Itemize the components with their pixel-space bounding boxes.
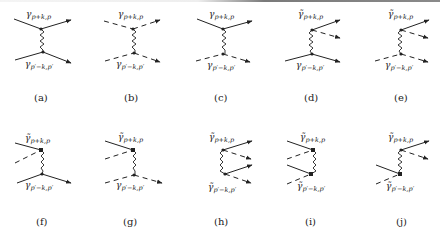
caption-d: (d) bbox=[304, 92, 318, 103]
outgoing-scalar-line bbox=[134, 175, 162, 183]
exchange-wavy-line bbox=[133, 150, 136, 175]
top-label: γ̃p+k,p bbox=[388, 9, 414, 21]
incoming-fermion-line bbox=[376, 165, 400, 174]
diagram-i: γ̃p+k,p γ̃p′−k,p′ (i) bbox=[287, 132, 326, 227]
bottom-label: γp′−k,p′ bbox=[296, 60, 325, 72]
caption-j: (j) bbox=[396, 216, 407, 227]
bottom-label: γ̃p′−k,p′ bbox=[386, 181, 415, 193]
diagram-d: γ̃p+k,p γp′−k,p′ (d) bbox=[285, 9, 340, 103]
exchange-wavy-line bbox=[132, 29, 136, 53]
vertex-dot bbox=[41, 50, 44, 53]
bottom-label: γp′−k,p′ bbox=[385, 60, 414, 72]
vertex-dot bbox=[399, 148, 402, 151]
vertex-dot bbox=[132, 173, 135, 176]
incoming-fermion-line bbox=[287, 165, 311, 174]
diagram-j: γ̃p+k,p γ̃p′−k,p′ (j) bbox=[376, 132, 429, 227]
outgoing-scalar-line bbox=[312, 30, 340, 38]
vertex-dot bbox=[221, 148, 224, 151]
outgoing-scalar-line bbox=[401, 54, 428, 62]
bottom-label: γp′−k,p′ bbox=[25, 59, 54, 71]
vertex-dot bbox=[131, 27, 134, 30]
bottom-label: γp′−k,p′ bbox=[116, 180, 145, 192]
caption-i: (i) bbox=[305, 216, 316, 227]
bottom-label: γ̃p′−k,p′ bbox=[297, 181, 326, 193]
top-label: γp+k,p bbox=[118, 9, 144, 21]
top-label: γ̃p+k,p bbox=[25, 133, 51, 145]
exchange-wavy-line bbox=[40, 29, 44, 52]
top-label: γp+k,p bbox=[26, 9, 52, 21]
diagram-a: γp+k,p γp′−k,p′ (a) bbox=[14, 9, 71, 103]
caption-h: (h) bbox=[214, 216, 228, 227]
outgoing-fermion-line bbox=[312, 54, 340, 62]
vertex-dot bbox=[40, 172, 43, 175]
caption-f: (f) bbox=[36, 216, 48, 227]
outgoing-scalar-line bbox=[223, 150, 251, 159]
diagram-b: γp+k,p γp′−k,p′ (b) bbox=[104, 9, 160, 103]
outgoing-scalar-line bbox=[401, 150, 428, 159]
caption-e: (e) bbox=[394, 92, 408, 103]
diagram-g: γ̃p+k,p γp′−k,p′ (g) bbox=[105, 132, 162, 227]
vertex-dot bbox=[310, 28, 313, 31]
outgoing-fermion-line bbox=[43, 52, 71, 63]
bottom-label: γ̃p′−k,p′ bbox=[208, 182, 237, 194]
outgoing-fermion-line bbox=[41, 20, 71, 29]
exchange-wavy-line bbox=[398, 30, 402, 54]
outgoing-fermion-line bbox=[42, 174, 71, 183]
outgoing-scalar-line bbox=[223, 54, 250, 62]
top-label: γ̃p+k,p bbox=[209, 132, 235, 144]
caption-b: (b) bbox=[124, 92, 138, 103]
exchange-wavy-line bbox=[309, 30, 313, 54]
outgoing-scalar-line bbox=[225, 174, 251, 183]
vertex-dot bbox=[310, 52, 313, 55]
diagram-c: γp+k,p γp′−k,p′ (c) bbox=[196, 9, 252, 103]
vertex-dot bbox=[39, 27, 42, 30]
vertex-dot bbox=[399, 28, 402, 31]
outgoing-fermion-line bbox=[225, 165, 252, 174]
exchange-wavy-line bbox=[398, 150, 402, 174]
vertex-dot bbox=[309, 172, 313, 176]
bottom-label: γp′−k,p′ bbox=[207, 60, 236, 72]
feynman-diagram-figure: γp+k,p γp′−k,p′ (a) γp+k,p γp′−k,p′ (b) … bbox=[0, 0, 440, 242]
incoming-scalar-line bbox=[287, 150, 313, 159]
incoming-scalar-line bbox=[104, 21, 133, 29]
vertex-dot bbox=[221, 52, 224, 55]
outgoing-fermion-line bbox=[312, 20, 340, 30]
exchange-wavy-line bbox=[311, 150, 316, 174]
vertex-dot bbox=[132, 51, 135, 54]
vertex-dot bbox=[398, 172, 402, 176]
top-label: γ̃p+k,p bbox=[388, 132, 414, 144]
vertex-dot bbox=[311, 148, 315, 152]
top-label: γ̃p+k,p bbox=[118, 132, 144, 144]
caption-g: (g) bbox=[123, 216, 137, 227]
bottom-label: γp′−k,p′ bbox=[116, 59, 145, 71]
outgoing-scalar-line bbox=[134, 53, 160, 62]
outgoing-scalar-line bbox=[401, 30, 428, 38]
top-label: γ̃p+k,p bbox=[300, 132, 326, 144]
vertex-dot bbox=[131, 148, 135, 152]
diagram-h: γ̃p+k,p γ̃p′−k,p′ (h) bbox=[208, 132, 252, 227]
incoming-scalar-line bbox=[15, 150, 41, 163]
vertex-dot bbox=[399, 52, 402, 55]
vertex-dot bbox=[223, 172, 226, 175]
exchange-wavy-line bbox=[222, 29, 226, 54]
diagram-f: γ̃p+k,p γp′−k,p′ (f) bbox=[15, 133, 71, 227]
top-label: γp+k,p bbox=[209, 9, 235, 21]
bottom-label: γp′−k,p′ bbox=[25, 180, 54, 192]
outgoing-scalar-line bbox=[133, 20, 160, 29]
caption-a: (a) bbox=[34, 92, 48, 103]
incoming-scalar-line bbox=[105, 150, 133, 159]
exchange-wavy-line bbox=[220, 150, 225, 174]
exchange-wavy-line bbox=[41, 150, 44, 174]
outgoing-fermion-line bbox=[223, 21, 252, 29]
outgoing-fermion-line bbox=[401, 20, 429, 30]
vertex-dot bbox=[39, 148, 43, 152]
vertex-dot bbox=[221, 27, 224, 30]
top-label: γ̃p+k,p bbox=[298, 9, 324, 21]
diagram-e: γ̃p+k,p γp′−k,p′ (e) bbox=[375, 9, 429, 103]
caption-c: (c) bbox=[214, 92, 228, 103]
